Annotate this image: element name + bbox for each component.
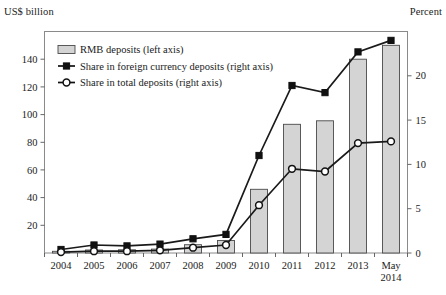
left-tick-label: 60 <box>27 165 38 176</box>
x-tick-label: 2011 <box>282 260 303 271</box>
series-marker <box>91 248 98 255</box>
x-tick-label: May <box>381 260 401 271</box>
series-marker <box>223 231 229 237</box>
series-marker <box>256 152 262 158</box>
chart-container: US$ billion Percent 20406080100120140 05… <box>0 0 446 295</box>
x-tick-label: 2004 <box>51 260 73 271</box>
bar-May-2014 <box>383 45 400 253</box>
x-tick-label: 2006 <box>117 260 138 271</box>
right-tick-label: 20 <box>416 70 427 81</box>
legend-marker-circle <box>63 79 70 86</box>
left-tick-label: 20 <box>27 220 38 231</box>
right-axis-ticks: 05101520 <box>408 70 427 258</box>
x-tick-label: 2009 <box>216 260 237 271</box>
bar-2011 <box>284 124 301 253</box>
right-tick-label: 0 <box>416 248 421 259</box>
series-marker <box>388 138 395 145</box>
chart-plot: 20406080100120140 05101520 2004200520062… <box>0 0 446 295</box>
x-tick-label: 2010 <box>249 260 270 271</box>
x-tick-label: 2013 <box>348 260 369 271</box>
right-tick-label: 10 <box>416 159 427 170</box>
series-marker <box>322 90 328 96</box>
chart-legend: RMB deposits (left axis)Share in foreign… <box>58 44 274 89</box>
legend-label: Share in foreign currency deposits (righ… <box>80 61 274 73</box>
legend-swatch-bar <box>58 46 75 54</box>
left-tick-label: 140 <box>22 54 38 65</box>
series-marker <box>157 247 164 254</box>
x-tick-label: 2012 <box>315 260 336 271</box>
series-marker <box>289 82 295 88</box>
legend-marker-square <box>63 63 69 69</box>
x-tick-label: 2005 <box>84 260 105 271</box>
series-marker <box>388 37 394 43</box>
series-marker <box>124 248 131 255</box>
series-marker <box>223 242 230 249</box>
left-tick-label: 40 <box>27 192 38 203</box>
series-marker <box>190 244 197 251</box>
right-tick-label: 15 <box>416 115 427 126</box>
series-marker <box>355 49 361 55</box>
series-marker <box>190 236 196 242</box>
legend-label: RMB deposits (left axis) <box>80 44 184 56</box>
legend-label: Share in total deposits (right axis) <box>80 77 223 89</box>
series-marker <box>355 140 362 147</box>
bar-2013 <box>350 59 367 253</box>
bar-2012 <box>317 121 334 253</box>
x-tick-label-line2: 2014 <box>381 272 403 283</box>
x-axis-ticks <box>45 253 408 257</box>
left-tick-label: 80 <box>27 137 38 148</box>
series-marker <box>256 202 263 209</box>
x-tick-label: 2008 <box>183 260 204 271</box>
series-marker <box>289 165 296 172</box>
series-marker <box>322 168 329 175</box>
left-tick-label: 120 <box>22 82 38 93</box>
x-axis-labels: 2004200520062007200820092010201120122013… <box>51 260 403 283</box>
left-tick-label: 100 <box>22 109 38 120</box>
right-tick-label: 5 <box>416 203 421 214</box>
x-tick-label: 2007 <box>150 260 171 271</box>
series-marker <box>58 249 65 256</box>
series-path <box>61 40 391 249</box>
left-axis-ticks: 20406080100120140 <box>22 54 45 231</box>
